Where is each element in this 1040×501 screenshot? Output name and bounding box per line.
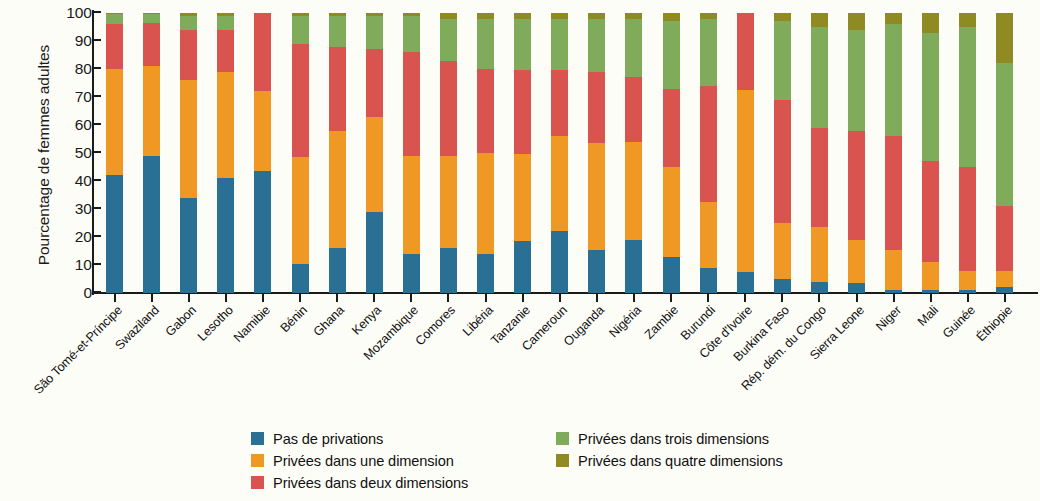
bar-column[interactable] [366,13,383,293]
bar-segment[interactable] [403,156,420,254]
bar-segment[interactable] [403,16,420,52]
bar-segment[interactable] [996,271,1013,288]
bar-column[interactable] [811,13,828,293]
bar-segment[interactable] [885,290,902,293]
bar-segment[interactable] [885,250,902,291]
bar-column[interactable] [625,13,642,293]
bar-segment[interactable] [180,30,197,80]
bar-column[interactable] [254,13,271,293]
bar-segment[interactable] [180,80,197,198]
bar-segment[interactable] [143,156,160,293]
bar-column[interactable] [737,13,754,293]
bar-segment[interactable] [922,33,939,162]
bar-segment[interactable] [811,128,828,227]
bar-segment[interactable] [514,70,531,154]
bar-segment[interactable] [329,131,346,249]
bar-segment[interactable] [625,77,642,141]
bar-segment[interactable] [922,262,939,290]
bar-segment[interactable] [663,89,680,167]
bar-column[interactable] [180,13,197,293]
bar-segment[interactable] [143,14,160,22]
bar-segment[interactable] [848,240,865,283]
bar-segment[interactable] [959,27,976,167]
bar-segment[interactable] [143,23,160,66]
bar-segment[interactable] [551,136,568,231]
bar-segment[interactable] [737,90,754,272]
bar-column[interactable] [106,13,123,293]
bar-segment[interactable] [996,287,1013,293]
bar-segment[interactable] [292,264,309,293]
bar-segment[interactable] [551,19,568,71]
bar-segment[interactable] [217,30,234,72]
bar-segment[interactable] [143,66,160,156]
bar-column[interactable] [143,13,160,293]
bar-segment[interactable] [366,117,383,212]
bar-segment[interactable] [737,13,754,90]
bar-segment[interactable] [403,52,420,156]
bar-column[interactable] [217,13,234,293]
legend-item[interactable]: Privées dans quatre dimensions [556,450,783,471]
bar-segment[interactable] [440,61,457,156]
bar-segment[interactable] [700,202,717,268]
bar-segment[interactable] [440,19,457,61]
bar-segment[interactable] [329,16,346,47]
bar-segment[interactable] [551,231,568,293]
bar-segment[interactable] [551,70,568,136]
bar-column[interactable] [885,13,902,293]
bar-segment[interactable] [217,72,234,178]
bar-segment[interactable] [106,14,123,24]
bar-segment[interactable] [737,272,754,293]
bar-segment[interactable] [959,271,976,291]
bar-column[interactable] [551,13,568,293]
bar-segment[interactable] [254,171,271,293]
bar-segment[interactable] [440,156,457,248]
bar-segment[interactable] [329,47,346,131]
bar-column[interactable] [663,13,680,293]
bar-column[interactable] [922,13,939,293]
bar-segment[interactable] [663,257,680,293]
bar-segment[interactable] [588,250,605,293]
bar-segment[interactable] [663,13,680,21]
bar-segment[interactable] [106,175,123,293]
bar-segment[interactable] [848,13,865,30]
bar-segment[interactable] [217,178,234,293]
bar-segment[interactable] [774,279,791,293]
bar-segment[interactable] [106,24,123,69]
bar-column[interactable] [514,13,531,293]
bar-segment[interactable] [292,157,309,263]
bar-segment[interactable] [885,136,902,249]
bar-column[interactable] [996,13,1013,293]
bar-segment[interactable] [663,167,680,257]
bar-segment[interactable] [217,16,234,30]
bar-segment[interactable] [514,154,531,241]
bar-segment[interactable] [959,167,976,271]
legend-item[interactable]: Privées dans trois dimensions [556,428,783,449]
bar-column[interactable] [440,13,457,293]
bar-segment[interactable] [292,16,309,44]
bar-segment[interactable] [180,16,197,30]
bar-segment[interactable] [440,248,457,293]
bar-segment[interactable] [700,19,717,86]
bar-segment[interactable] [885,24,902,136]
bar-segment[interactable] [700,86,717,202]
legend-item[interactable]: Privées dans une dimension [251,450,468,471]
bar-segment[interactable] [922,13,939,33]
bar-segment[interactable] [588,143,605,249]
bar-segment[interactable] [700,268,717,293]
bar-column[interactable] [403,13,420,293]
bar-segment[interactable] [848,30,865,131]
bar-segment[interactable] [774,100,791,223]
bar-segment[interactable] [922,161,939,262]
bar-segment[interactable] [848,131,865,240]
bar-column[interactable] [292,13,309,293]
bar-segment[interactable] [514,19,531,71]
bar-segment[interactable] [811,13,828,27]
bar-column[interactable] [700,13,717,293]
bar-segment[interactable] [922,290,939,293]
bar-segment[interactable] [254,13,271,91]
bar-segment[interactable] [625,240,642,293]
legend-item[interactable]: Privées dans deux dimensions [251,472,468,493]
bar-column[interactable] [588,13,605,293]
bar-segment[interactable] [329,248,346,293]
bar-segment[interactable] [885,13,902,24]
